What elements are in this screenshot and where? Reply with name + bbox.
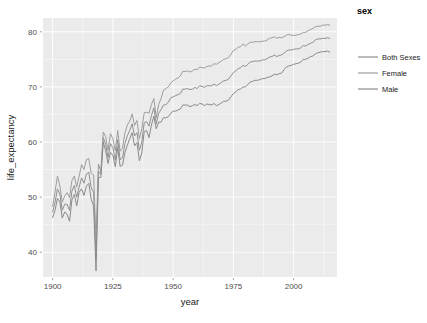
life-expectancy-line-chart: 19001925195019752000 4050607080 year lif… [0,0,427,323]
x-tick-label: 1900 [44,282,62,291]
x-tick-label: 1975 [224,282,242,291]
y-tick-label: 40 [28,248,37,257]
x-tick-label: 1925 [104,282,122,291]
x-axis-title: year [181,296,199,307]
y-axis-title: life_expectancy [5,115,16,181]
legend-title: sex [357,6,372,16]
y-tick-label: 80 [28,28,37,37]
legend-item-label: Female [382,69,407,78]
plot-panel [43,18,337,277]
legend-item-label: Male [382,85,398,94]
chart-container: 19001925195019752000 4050607080 year lif… [0,0,427,323]
y-tick-label: 60 [28,138,37,147]
x-tick-label: 2000 [285,282,303,291]
y-tick-label: 50 [28,193,37,202]
legend-item-label: Both Sexes [382,53,421,62]
x-tick-label: 1950 [164,282,182,291]
y-tick-label: 70 [28,83,37,92]
